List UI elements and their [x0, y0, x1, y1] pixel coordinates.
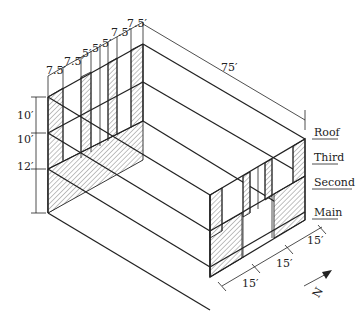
height-label: 10′	[17, 109, 34, 122]
front-dim-label: 15′	[276, 257, 293, 270]
floor-labels: Roof Third Second Main	[312, 126, 355, 219]
height-dimensions: 10′ 10′ 12′	[17, 97, 46, 213]
height-label: 12′	[17, 160, 34, 173]
length-dimension: 75′	[143, 24, 305, 130]
length-label: 75′	[221, 61, 238, 74]
floor-label-roof: Roof	[314, 126, 341, 139]
dim-label: 5′	[92, 42, 102, 55]
front-dim-label: 15′	[307, 234, 324, 247]
dim-label: 5′	[82, 47, 92, 60]
floor-label-second: Second	[314, 176, 355, 189]
floor-label-third: Third	[314, 151, 344, 164]
height-label: 10′	[17, 133, 34, 146]
floor-label-main: Main	[314, 206, 342, 219]
front-dim-label: 15′	[242, 277, 259, 290]
shear-panel	[131, 44, 143, 128]
north-label: N	[310, 285, 326, 300]
north-arrow: N	[304, 270, 332, 300]
shear-panel	[265, 159, 272, 200]
arrow-head-icon	[322, 270, 332, 279]
building-diagram: 7.5′ 7.5′ 5′ 5′ 5′ 7.5′ 7.5′ 75′ 10′ 10′…	[0, 0, 362, 314]
dim-label: 7.5′	[127, 17, 147, 30]
